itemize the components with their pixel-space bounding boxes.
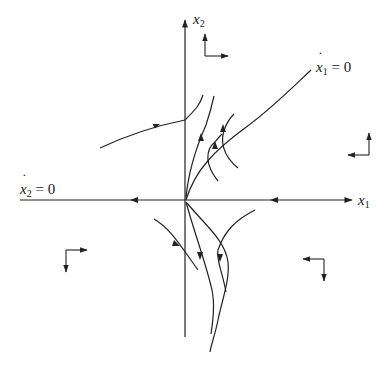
trajectory-lower-3: [218, 210, 255, 292]
arrow-upper-2: [212, 141, 218, 149]
trajectory-upper-left: [100, 95, 203, 148]
direction-indicator-right: [348, 133, 369, 155]
x1dot-nullcline-label: x1 = 0: [316, 60, 351, 77]
direction-indicator-lower-left: [66, 250, 87, 272]
phase-portrait-diagram: [0, 0, 391, 377]
x1-axis-label: x1: [358, 193, 370, 210]
x2dot-nullcline-label: x2 = 0: [20, 182, 55, 199]
direction-indicator-lower-right: [303, 259, 324, 281]
arrow-on-x1-axis-right: [270, 197, 278, 203]
trajectory-upper-3: [223, 114, 238, 168]
direction-indicator-upper: [205, 34, 228, 56]
x2-axis-label: x2: [193, 12, 205, 29]
arrow-on-x1-axis-left: [130, 197, 138, 203]
x1dot-nullcline: [186, 70, 311, 200]
arrow-upper-1: [198, 133, 204, 141]
trajectory-upper-1: [186, 96, 214, 198]
trajectory-lower-1: [186, 202, 214, 334]
